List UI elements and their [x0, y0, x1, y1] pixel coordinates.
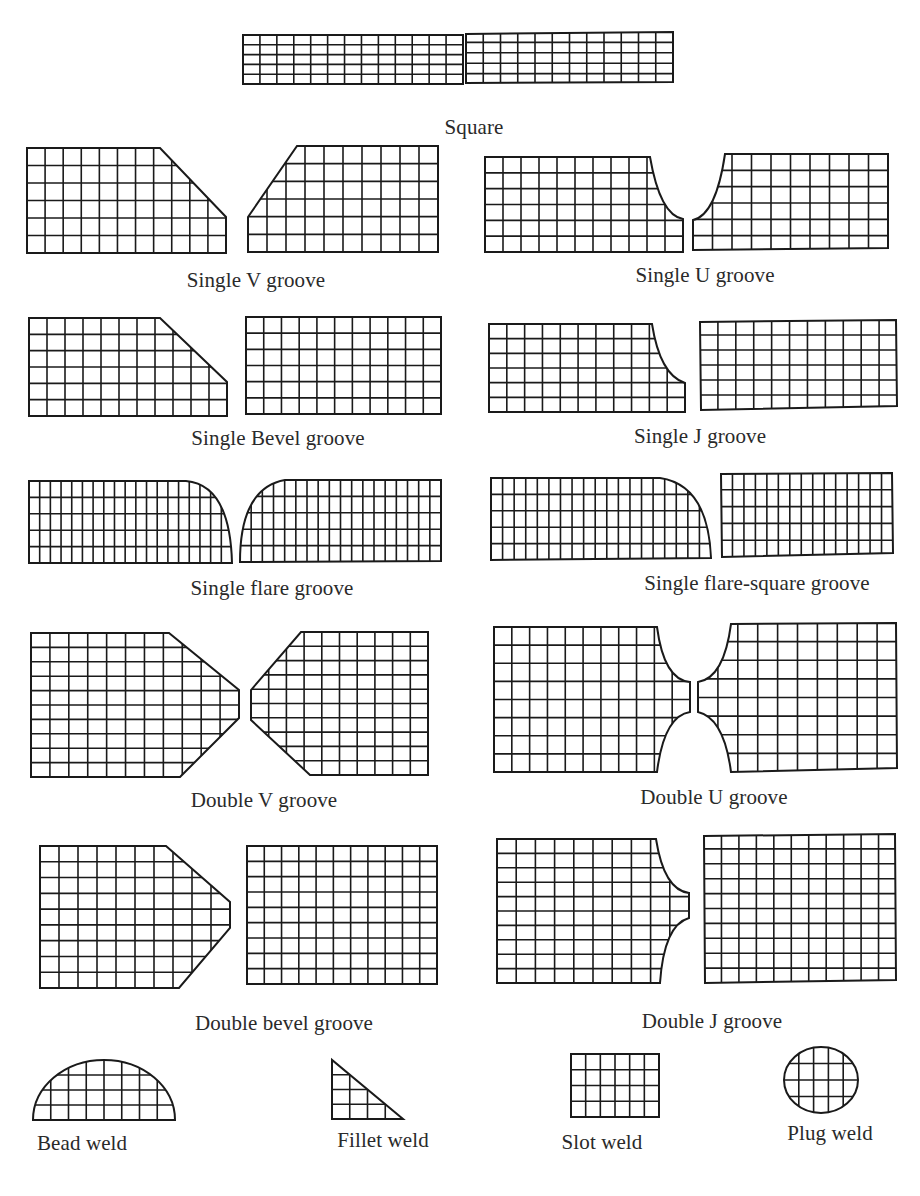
slot-weld-part-1: [569, 1052, 661, 1119]
double-u-groove-part-2: [696, 621, 899, 774]
mesh-grid: [702, 832, 898, 985]
square-part-2: [464, 30, 675, 86]
mesh-grid: [241, 33, 465, 86]
mesh-grid: [489, 476, 713, 562]
single-bevel-groove-label: Single Bevel groove: [191, 426, 364, 451]
part-outline: [243, 35, 463, 84]
fillet-weld-part-1: [330, 1058, 405, 1121]
double-v-groove-part-2: [249, 630, 430, 777]
mesh-grid: [483, 155, 685, 254]
joint-double-v-groove: [29, 630, 430, 779]
single-flare-groove-part-2: [238, 478, 443, 564]
square-label: Square: [445, 115, 504, 140]
single-v-groove-part-2: [246, 144, 440, 254]
single-u-groove-label: Single U groove: [635, 263, 774, 288]
mesh-grid: [25, 146, 228, 255]
double-bevel-groove-label: Double bevel groove: [195, 1011, 373, 1036]
joint-single-flare-groove: [27, 478, 443, 565]
joint-double-j-groove: [495, 832, 898, 985]
slot-weld-label: Slot weld: [562, 1130, 643, 1155]
fillet-weld-label: Fillet weld: [337, 1128, 429, 1153]
mesh-grid: [31, 1058, 177, 1122]
single-flare-groove-label: Single flare groove: [191, 576, 354, 601]
mesh-grid: [719, 471, 895, 559]
plug-weld-part-1: [782, 1045, 860, 1115]
double-v-groove-part-1: [29, 631, 241, 779]
joint-single-v-groove: [25, 144, 440, 255]
joint-double-bevel-groove: [38, 844, 439, 990]
mesh-grid: [464, 30, 675, 86]
double-u-groove-part-1: [492, 625, 692, 774]
single-bevel-groove-part-2: [244, 315, 443, 416]
joint-single-flare-square-groove: [489, 471, 895, 562]
single-u-groove-part-2: [691, 152, 890, 254]
mesh-grid: [27, 479, 234, 565]
mesh-grid: [569, 1052, 661, 1119]
single-flare-square-groove-part-2: [719, 471, 895, 559]
mesh-grid: [27, 316, 229, 418]
mesh-grid: [29, 631, 241, 779]
bead-weld-part-1: [31, 1058, 177, 1122]
single-flare-groove-part-1: [27, 479, 234, 565]
double-v-groove-label: Double V groove: [191, 788, 338, 813]
mesh-grid: [487, 322, 687, 414]
mesh-grid: [245, 844, 439, 986]
single-j-groove-part-1: [487, 322, 687, 414]
part-outline: [29, 481, 232, 563]
part-outline: [247, 846, 437, 984]
plug-weld-label: Plug weld: [787, 1121, 873, 1146]
mesh-grid: [244, 315, 443, 416]
part-outline: [721, 473, 893, 557]
square-part-1: [241, 33, 465, 86]
double-bevel-groove-part-2: [245, 844, 439, 986]
mesh-grid: [246, 144, 440, 254]
double-j-groove-part-1: [495, 837, 691, 985]
mesh-grid: [698, 318, 899, 412]
joint-plug-weld: [782, 1045, 860, 1115]
joint-single-u-groove: [483, 152, 890, 254]
mesh-grid: [38, 844, 232, 990]
mesh-grid: [782, 1045, 860, 1115]
joint-double-u-groove: [492, 621, 899, 774]
mesh-grid: [249, 630, 430, 777]
double-u-groove-label: Double U groove: [640, 785, 787, 810]
mesh-grid: [238, 478, 443, 564]
double-j-groove-label: Double J groove: [642, 1009, 782, 1034]
joint-bead-weld: [31, 1058, 177, 1122]
mesh-grid: [691, 152, 890, 254]
single-v-groove-part-1: [25, 146, 228, 255]
joint-fillet-weld: [330, 1058, 405, 1121]
part-outline: [491, 478, 711, 560]
double-bevel-groove-part-1: [38, 844, 232, 990]
single-j-groove-part-2: [698, 318, 899, 412]
single-j-groove-label: Single J groove: [634, 424, 766, 449]
joint-square: [241, 30, 675, 86]
joint-single-j-groove: [487, 318, 899, 414]
single-flare-square-groove-label: Single flare-square groove: [644, 571, 869, 596]
single-flare-square-groove-part-1: [489, 476, 713, 562]
bead-weld-label: Bead weld: [37, 1131, 127, 1156]
joint-slot-weld: [569, 1052, 661, 1119]
single-v-groove-label: Single V groove: [187, 268, 325, 293]
double-j-groove-part-2: [702, 832, 898, 985]
joint-single-bevel-groove: [27, 315, 443, 418]
single-u-groove-part-1: [483, 155, 685, 254]
mesh-grid: [492, 625, 692, 774]
single-bevel-groove-part-1: [27, 316, 229, 418]
